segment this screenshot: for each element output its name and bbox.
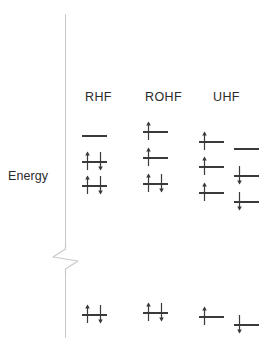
electron-spin-up-arrow-icon (200, 306, 209, 326)
orbital-level-rohf-somo-2 (143, 124, 168, 138)
orbital-level-rhf-occupied-2 (82, 154, 107, 168)
energy-axis-upper-segment (65, 14, 66, 246)
orbital-level-uhf-alpha-1 (199, 185, 224, 199)
electron-spin-up-arrow-icon (83, 304, 92, 324)
orbital-level-uhf-beta-2 (234, 168, 259, 182)
electron-spin-up-arrow-icon (144, 173, 153, 193)
electron-spin-up-arrow-icon (83, 151, 92, 171)
orbital-level-rhf-core (82, 307, 107, 321)
orbital-level-uhf-beta-core (234, 317, 259, 331)
electron-spin-up-arrow-icon (200, 182, 209, 202)
electron-spin-down-arrow-icon (157, 302, 166, 322)
orbital-level-rhf-occupied-1 (82, 178, 107, 192)
orbital-level-uhf-beta-3 (234, 141, 259, 155)
orbital-level-rohf-occupied-1 (143, 176, 168, 190)
orbital-level-uhf-alpha-3 (199, 134, 224, 148)
orbital-level-uhf-alpha-core (199, 309, 224, 323)
orbital-level-uhf-beta-1 (234, 194, 259, 208)
orbital-level-rhf-virtual-1 (82, 128, 107, 142)
axis-break-zigzag-icon (52, 243, 80, 275)
electron-spin-up-arrow-icon (144, 147, 153, 167)
electron-spin-up-arrow-icon (83, 175, 92, 195)
electron-spin-down-arrow-icon (235, 314, 244, 334)
electron-spin-down-arrow-icon (235, 191, 244, 211)
orbital-level-bar (82, 135, 107, 137)
orbital-level-uhf-alpha-2 (199, 159, 224, 173)
electron-spin-up-arrow-icon (200, 156, 209, 176)
electron-spin-up-arrow-icon (200, 131, 209, 151)
electron-spin-down-arrow-icon (235, 165, 244, 185)
electron-spin-down-arrow-icon (157, 173, 166, 193)
energy-axis-lower-segment (65, 272, 66, 338)
energy-level-diagram: Energy RHFROHFUHF (0, 0, 268, 344)
electron-spin-down-arrow-icon (96, 151, 105, 171)
electron-spin-down-arrow-icon (96, 304, 105, 324)
electron-spin-up-arrow-icon (144, 302, 153, 322)
energy-axis-label: Energy (8, 169, 48, 183)
orbital-level-rohf-core (143, 305, 168, 319)
column-header-rohf: ROHF (145, 90, 182, 104)
electron-spin-up-arrow-icon (144, 121, 153, 141)
orbital-level-rohf-somo-1 (143, 150, 168, 164)
column-header-rhf: RHF (85, 90, 112, 104)
orbital-level-bar (234, 148, 259, 150)
column-header-uhf: UHF (213, 90, 240, 104)
electron-spin-down-arrow-icon (96, 175, 105, 195)
